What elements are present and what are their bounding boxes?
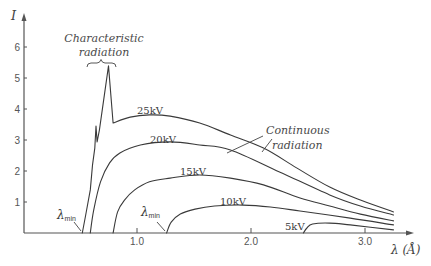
curve-label-25kv: 25kV bbox=[137, 105, 164, 116]
y-axis-arrow-icon bbox=[22, 13, 27, 21]
characteristic-label-line2: radiation bbox=[79, 46, 130, 59]
curve-20kv bbox=[90, 142, 393, 233]
lambda-symbol: λ bbox=[140, 205, 149, 219]
y-tick-label: 5 bbox=[14, 73, 20, 84]
y-tick-label: 2 bbox=[14, 166, 20, 177]
y-ticks: 1 2 3 4 5 6 bbox=[14, 42, 27, 208]
lambda-subscript: min bbox=[149, 212, 160, 219]
characteristic-label-line1: Characteristic bbox=[64, 32, 144, 45]
lambda-min-annotation-1: λmin bbox=[56, 208, 81, 231]
curve-label-15kv: 15kV bbox=[180, 166, 207, 177]
xray-spectrum-chart: I λ (Å) 1 2 3 4 5 6 1.0 2.0 3.0 bbox=[0, 0, 431, 266]
curve-5kv bbox=[303, 223, 393, 233]
lambda-min-leader bbox=[74, 222, 81, 231]
y-tick-label: 3 bbox=[14, 135, 20, 146]
y-tick-label: 6 bbox=[14, 42, 20, 53]
lambda-min-label: λmin bbox=[140, 205, 160, 219]
x-tick-label: 2.0 bbox=[244, 236, 258, 247]
x-axis-arrow-icon bbox=[406, 231, 414, 236]
x-ticks: 1.0 2.0 3.0 bbox=[130, 228, 372, 247]
curve-label-10kv: 10kV bbox=[220, 196, 247, 207]
characteristic-radiation-annotation: Characteristic radiation bbox=[64, 32, 144, 67]
lambda-min-annotation-2: λmin bbox=[140, 205, 165, 231]
curve-25kv bbox=[82, 66, 393, 233]
y-axis-label: I bbox=[10, 8, 17, 23]
lambda-min-label: λmin bbox=[56, 208, 76, 222]
curve-15kv bbox=[113, 175, 393, 233]
continuous-leader-line bbox=[227, 136, 263, 153]
x-tick-label: 3.0 bbox=[358, 236, 372, 247]
curve-label-20kv: 20kV bbox=[150, 134, 177, 145]
spectrum-curves bbox=[82, 66, 393, 233]
x-axis-label: λ (Å) bbox=[390, 242, 421, 257]
continuous-label-line1: Continuous bbox=[266, 124, 330, 137]
lambda-min-leader bbox=[157, 222, 165, 231]
lambda-symbol: λ bbox=[56, 208, 65, 222]
curly-brace-icon bbox=[87, 60, 116, 68]
curve-label-5kv: 5kV bbox=[285, 221, 305, 232]
curve-10kv bbox=[167, 205, 394, 233]
continuous-radiation-annotation: Continuous radiation bbox=[227, 124, 330, 153]
continuous-label-line2: radiation bbox=[272, 139, 323, 152]
y-tick-label: 4 bbox=[14, 104, 20, 115]
y-tick-label: 1 bbox=[14, 197, 20, 208]
lambda-subscript: min bbox=[65, 215, 76, 222]
x-tick-label: 1.0 bbox=[130, 236, 144, 247]
